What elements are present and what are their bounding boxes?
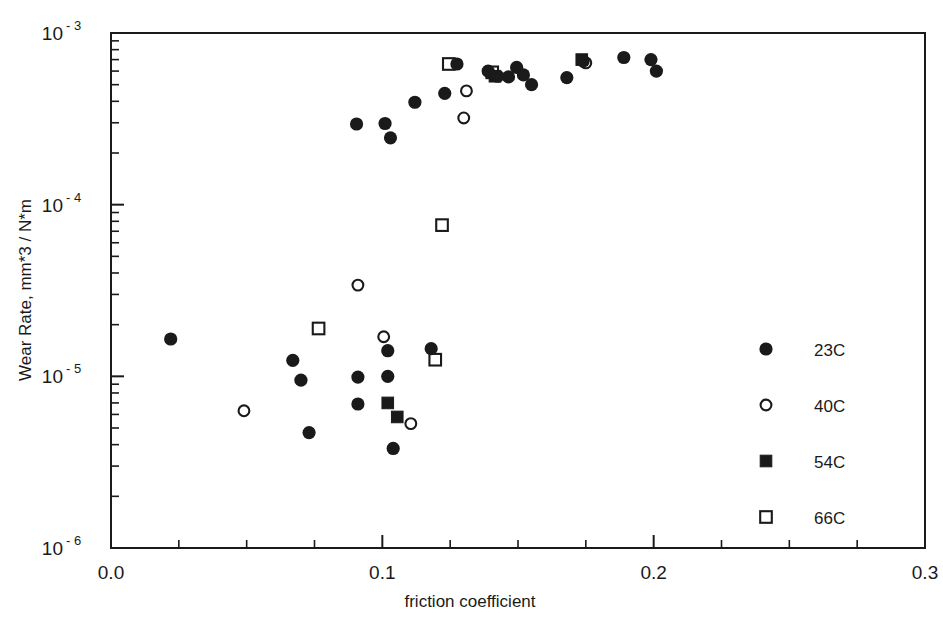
y-tick-label: 10- 4 [42, 190, 81, 216]
y-tick-label: 10- 6 [42, 533, 81, 559]
series-66C [313, 58, 498, 365]
y-axis-tick-labels: 10- 310- 410- 510- 6 [42, 18, 81, 559]
data-point-40C [405, 418, 416, 429]
series-54C [382, 54, 588, 423]
y-tick-exponent: - 3 [66, 18, 81, 33]
legend-marker-open-square [760, 511, 772, 523]
y-axis-title: Wear Rate, mm*3 / N*m [16, 199, 35, 381]
y-tick-label: 10- 5 [42, 361, 81, 387]
axes-frame [111, 33, 925, 548]
data-point-54C [382, 397, 394, 409]
legend-label: 66C [814, 509, 845, 528]
data-point-23C [425, 342, 438, 355]
legend-item-23C[interactable]: 23C [759, 341, 845, 360]
y-tick-mantissa: 10 [42, 538, 63, 559]
series-23C [164, 51, 663, 455]
plot-canvas: 10- 310- 410- 510- 6 0.00.10.20.3 23C40C… [0, 0, 943, 621]
scatter-plot-figure: 10- 310- 410- 510- 6 0.00.10.20.3 23C40C… [0, 0, 943, 621]
legend-label: 54C [814, 453, 845, 472]
legend-marker-filled-square [760, 455, 772, 467]
data-point-40C [458, 113, 469, 124]
legend-marker-open-circle [761, 400, 772, 411]
y-tick-label: 10- 3 [42, 18, 81, 44]
data-point-40C [461, 85, 472, 96]
data-point-23C [387, 442, 400, 455]
legend-item-54C[interactable]: 54C [760, 453, 845, 472]
data-point-23C [381, 344, 394, 357]
series-40C [239, 57, 592, 429]
legend: 23C40C54C66C [759, 341, 845, 528]
data-point-23C [351, 370, 364, 383]
x-tick-label: 0.3 [912, 562, 938, 583]
data-point-66C [436, 219, 448, 231]
data-point-23C [164, 332, 177, 345]
y-tick-exponent: - 5 [66, 361, 81, 376]
data-point-23C [408, 96, 421, 109]
data-point-40C [239, 405, 250, 416]
data-point-40C [353, 280, 364, 291]
x-tick-label: 0.1 [369, 562, 395, 583]
y-tick-mantissa: 10 [42, 366, 63, 387]
y-tick-mantissa: 10 [42, 23, 63, 44]
legend-label: 40C [814, 397, 845, 416]
data-point-23C [378, 117, 391, 130]
x-axis-title: friction coefficient [404, 592, 535, 611]
data-point-23C [351, 397, 364, 410]
data-point-23C [381, 370, 394, 383]
legend-marker-filled-circle [759, 342, 772, 355]
data-point-23C [650, 64, 663, 77]
data-point-66C [429, 354, 441, 366]
data-point-23C [644, 53, 657, 66]
data-point-23C [560, 71, 573, 84]
x-axis-tick-labels: 0.00.10.20.3 [98, 562, 938, 583]
legend-item-66C[interactable]: 66C [760, 509, 845, 528]
data-point-23C [286, 354, 299, 367]
y-axis-ticks [111, 33, 124, 548]
axes-border [111, 33, 925, 548]
legend-label: 23C [814, 341, 845, 360]
data-point-23C [525, 78, 538, 91]
data-point-23C [350, 117, 363, 130]
x-axis-ticks [111, 535, 925, 548]
data-point-23C [577, 55, 590, 68]
y-tick-mantissa: 10 [42, 195, 63, 216]
x-tick-label: 0.2 [640, 562, 666, 583]
data-point-40C [378, 331, 389, 342]
data-point-markers [164, 51, 663, 455]
data-point-23C [438, 87, 451, 100]
data-point-23C [450, 57, 463, 70]
x-tick-label: 0.0 [98, 562, 124, 583]
data-point-23C [302, 426, 315, 439]
data-point-23C [384, 131, 397, 144]
data-point-54C [391, 411, 403, 423]
y-tick-exponent: - 4 [66, 190, 81, 205]
legend-item-40C[interactable]: 40C [761, 397, 846, 416]
data-point-23C [294, 374, 307, 387]
data-point-66C [313, 323, 325, 335]
y-tick-exponent: - 6 [66, 533, 81, 548]
data-point-23C [617, 51, 630, 64]
